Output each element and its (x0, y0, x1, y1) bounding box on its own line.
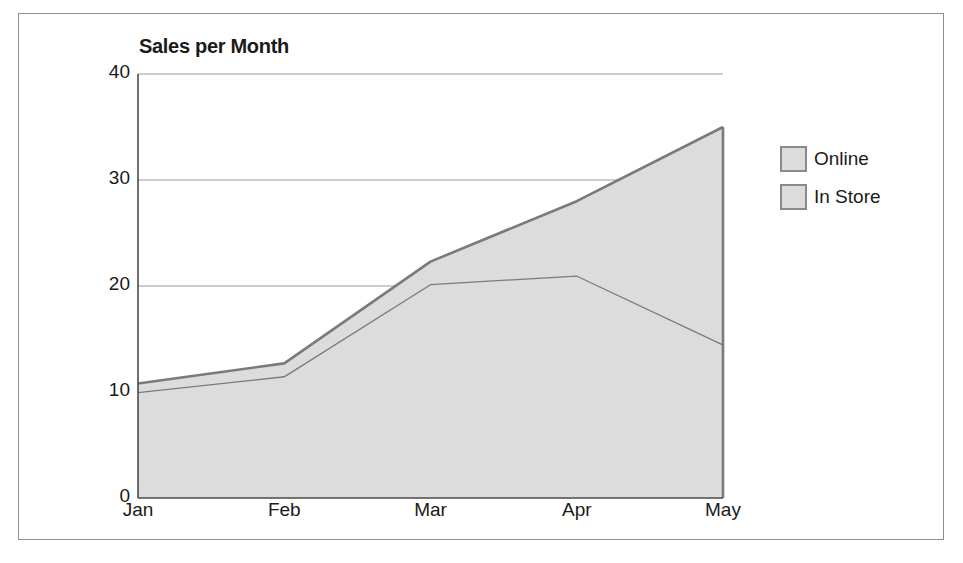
chart-legend: OnlineIn Store (780, 140, 881, 216)
legend-swatch-icon (780, 146, 807, 172)
legend-item-in-store[interactable]: In Store (780, 178, 881, 216)
y-tick-label: 30 (84, 167, 130, 189)
x-tick-label: Mar (391, 499, 471, 521)
area-chart-plot (19, 14, 945, 541)
legend-item-online[interactable]: Online (780, 140, 881, 178)
x-tick-label: Jan (98, 499, 178, 521)
x-tick-label: Feb (244, 499, 324, 521)
legend-swatch-icon (780, 184, 807, 210)
area-series-group (138, 127, 723, 498)
x-tick-label: May (683, 499, 763, 521)
y-tick-label: 10 (84, 379, 130, 401)
x-tick-label: Apr (537, 499, 617, 521)
area-band-in-store (138, 275, 723, 498)
legend-label: In Store (814, 186, 881, 208)
y-tick-label: 40 (84, 61, 130, 83)
chart-figure-frame: Sales per Month 010203040 JanFebMarAprMa… (18, 13, 944, 540)
y-tick-label: 20 (84, 273, 130, 295)
legend-label: Online (814, 148, 869, 170)
